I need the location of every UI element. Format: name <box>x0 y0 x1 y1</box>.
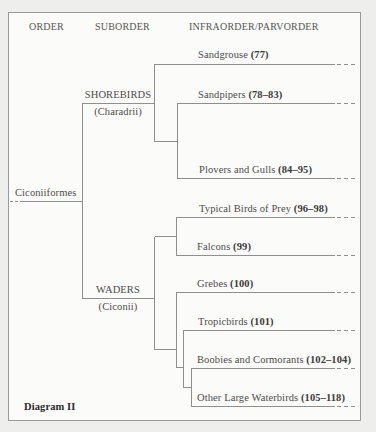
taxon-falcons: Falcons (99) <box>197 241 251 253</box>
taxon-name: Sandpipers <box>198 89 246 100</box>
taxon-plovers-gulls: Plovers and Gulls (84–95) <box>199 164 312 176</box>
diagram-caption: Diagram II <box>24 401 75 413</box>
taxon-name: Grebes <box>197 278 227 289</box>
header-order: ORDER <box>29 21 64 33</box>
taxon-range: (77) <box>251 49 269 60</box>
header-suborder: SUBORDER <box>95 21 150 33</box>
taxon-sandgrouse: Sandgrouse (77) <box>198 49 269 61</box>
suborder-shorebirds: SHOREBIRDS <box>82 89 154 101</box>
taxon-name: Tropicbirds <box>198 316 248 327</box>
taxon-tropicbirds: Tropicbirds (101) <box>198 316 274 328</box>
taxon-range: (101) <box>250 316 273 327</box>
taxon-range: (96–98) <box>294 203 328 214</box>
taxon-range: (105–118) <box>301 392 345 403</box>
taxon-grebes: Grebes (100) <box>197 278 253 290</box>
order-label: Ciconiiformes <box>15 187 76 199</box>
suborder-waders-latin: (Ciconii) <box>82 301 154 313</box>
taxon-range: (102–104) <box>306 354 351 365</box>
taxon-range: (78–83) <box>248 89 282 100</box>
taxon-other-large-waterbirds: Other Large Waterbirds (105–118) <box>197 392 345 404</box>
taxon-sandpipers: Sandpipers (78–83) <box>198 89 282 101</box>
taxon-name: Falcons <box>197 241 230 252</box>
taxon-name: Sandgrouse <box>198 49 248 60</box>
taxon-range: (84–95) <box>278 164 312 175</box>
taxon-name: Other Large Waterbirds <box>197 392 298 403</box>
taxon-name: Boobies and Cormorants <box>197 354 304 365</box>
suborder-waders: WADERS <box>82 284 154 296</box>
taxon-typical-birds-of-prey: Typical Birds of Prey (96–98) <box>199 203 328 215</box>
taxon-name: Typical Birds of Prey <box>199 203 291 214</box>
suborder-shorebirds-latin: (Charadrii) <box>82 106 154 118</box>
taxon-boobies-cormorants: Boobies and Cormorants (102–104) <box>197 354 351 366</box>
header-infraorder: INFRAORDER/PARVORDER <box>189 21 319 33</box>
cladogram-lines <box>0 0 376 432</box>
taxon-range: (100) <box>230 278 253 289</box>
taxon-range: (99) <box>233 241 251 252</box>
taxon-name: Plovers and Gulls <box>199 164 275 175</box>
